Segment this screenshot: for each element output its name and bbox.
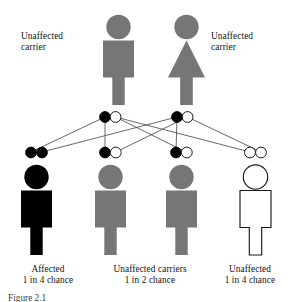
mother-figure [168,15,205,105]
mother-body [168,41,205,106]
line-father-n-child4 [116,117,251,152]
child3-alleles [171,147,193,158]
child-carriers-label: Unaffected carriers 1 in 2 chance [92,264,208,286]
child3-head [169,165,193,189]
child2-allele-affected [100,147,111,158]
child1-head [24,165,48,189]
child4-allele-normal-1 [245,147,256,158]
father-body [103,41,134,106]
child1-figure [21,165,52,255]
father-allele-normal [110,112,121,123]
child4-alleles [245,147,267,158]
child2-body [95,191,126,256]
father-figure [103,15,134,105]
child3-allele-affected [171,147,182,158]
child4-figure [240,165,271,255]
inheritance-figure: Unaffected carrier Unaffected carrier Af… [0,0,297,302]
figure-caption: Figure 2.1 [8,293,128,302]
child2-allele-normal [110,147,121,158]
father-alleles [100,112,121,123]
mother-alleles [172,112,193,123]
child3-body [166,191,197,256]
mother-allele-normal [182,112,193,123]
father-label: Unaffected carrier [21,31,99,53]
mother-label: Unaffected carrier [211,31,291,53]
child2-alleles [100,147,122,158]
line-mother-a-child1 [42,117,177,152]
mother-head [174,15,198,39]
child4-head [243,165,267,189]
child1-alleles [26,147,48,158]
child4-allele-normal-2 [256,147,267,158]
child3-allele-normal [181,147,192,158]
child2-head [98,165,122,189]
child-affected-label: Affected 1 in 4 chance [0,264,96,286]
father-head [106,15,130,39]
father-allele-affected [100,112,111,123]
child1-allele-affected-1 [26,147,37,158]
child3-figure [166,165,197,255]
child-unaffected-label: Unaffected 1 in 4 chance [203,264,297,286]
child1-body [21,191,52,256]
child1-allele-affected-2 [37,147,48,158]
child4-body [240,191,271,256]
mother-allele-affected [172,112,183,123]
inheritance-lines [31,117,261,152]
child2-figure [95,165,126,255]
